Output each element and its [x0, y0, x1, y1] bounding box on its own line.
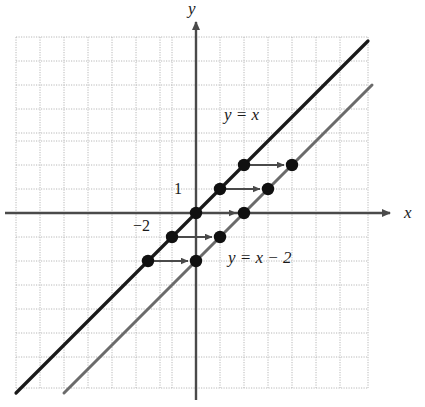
point-marker [166, 231, 178, 243]
tick-label-y-1: 1 [174, 181, 182, 197]
point-marker [286, 159, 298, 171]
coordinate-plane-svg [0, 0, 425, 407]
point-marker [238, 159, 250, 171]
point-marker [142, 255, 154, 267]
y-axis-label: y [188, 0, 196, 17]
curve-label-y-equals-x: y = x [224, 106, 259, 123]
point-marker [238, 207, 250, 219]
point-marker [190, 255, 202, 267]
graph-figure: y x 1 −2 y = x y = x − 2 [0, 0, 425, 407]
tick-label-x-negative-2: −2 [133, 218, 150, 234]
point-marker [214, 183, 226, 195]
curve-label-y-equals-x-minus-2: y = x − 2 [228, 249, 292, 266]
point-marker [214, 231, 226, 243]
x-axis-label: x [404, 204, 412, 221]
point-marker [262, 183, 274, 195]
point-marker [190, 207, 202, 219]
